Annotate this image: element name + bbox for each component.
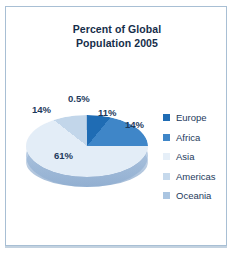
legend-item-label: Europe xyxy=(176,113,207,123)
legend-item-label: Oceania xyxy=(176,191,211,201)
legend-item-label: Americas xyxy=(176,172,216,182)
legend-swatch-icon xyxy=(163,134,170,141)
chart-title-line-2: Population 2005 xyxy=(20,37,214,51)
chart-legend: EuropeAfricaAsiaAmericasOceania xyxy=(163,108,233,206)
legend-swatch-icon xyxy=(163,192,170,199)
pie-label-asia: 61% xyxy=(54,150,73,161)
legend-item-asia[interactable]: Asia xyxy=(163,147,233,167)
legend-swatch-icon xyxy=(163,114,170,121)
legend-item-africa[interactable]: Africa xyxy=(163,128,233,148)
legend-item-europe[interactable]: Europe xyxy=(163,108,233,128)
chart-title-line-1: Percent of Global xyxy=(20,23,214,37)
pie-plot-area: 0.5% 11% 14% 14% 61% xyxy=(14,85,159,210)
legend-item-oceania[interactable]: Oceania xyxy=(163,186,233,206)
pie-label-oceania: 0.5% xyxy=(68,93,90,104)
chart-figure: Percent of Global Population 2005 0.5% 1… xyxy=(0,0,233,257)
legend-item-label: Asia xyxy=(176,152,194,162)
legend-swatch-icon xyxy=(163,153,170,160)
pie-label-americas: 14% xyxy=(32,104,51,115)
pie-label-europe: 11% xyxy=(98,107,117,118)
legend-item-americas[interactable]: Americas xyxy=(163,167,233,187)
legend-item-label: Africa xyxy=(176,133,200,143)
chart-title: Percent of Global Population 2005 xyxy=(20,23,214,50)
chart-panel: Percent of Global Population 2005 0.5% 1… xyxy=(5,6,227,246)
pie-label-africa: 14% xyxy=(125,119,144,130)
legend-swatch-icon xyxy=(163,173,170,180)
